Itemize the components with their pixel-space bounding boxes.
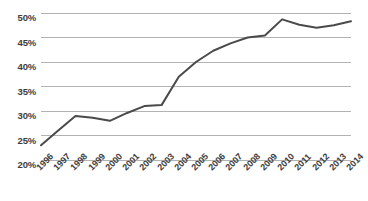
x-axis-tick-label: 2014 [345,166,368,178]
x-tick-text: 2014 [345,152,365,172]
